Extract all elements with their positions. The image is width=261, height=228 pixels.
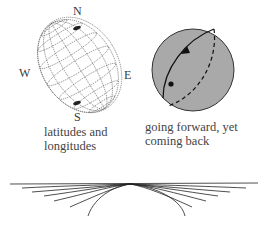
globe-caption-line1: latitudes and [44,125,108,139]
sphere-caption-line2: coming back [145,134,238,148]
great-circle-sphere-icon [152,29,234,111]
east-label: E [124,69,131,82]
sphere-caption-line1: going forward, yet [145,120,238,134]
globe-caption: latitudes and longitudes [44,125,108,153]
sphere-caption: going forward, yet coming back [145,120,238,148]
south-label: S [74,111,81,124]
globe-caption-line2: longitudes [44,139,108,153]
tangent-curves-fan-icon [10,183,258,216]
north-label: N [73,5,82,18]
diagram-canvas [0,0,261,228]
west-label: W [19,67,30,80]
pole-marks [73,25,82,106]
